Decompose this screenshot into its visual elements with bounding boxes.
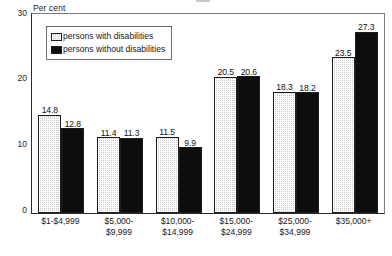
x-axis-label-line: $9,999 [90,227,149,238]
x-axis-label-line: $14,999 [148,227,207,238]
x-axis-label-line: $34,999 [266,227,325,238]
chart-legend: persons with disabilities persons withou… [46,26,172,60]
bar-value-label: 20.6 [241,68,257,77]
x-axis-label: $5,000-$9,999 [90,216,149,237]
legend-swatch-dotted-icon [51,33,62,41]
x-axis-label-line: $25,000- [266,216,325,227]
bar: 20.6 [237,76,260,213]
bar: 18.3 [273,92,296,213]
x-axis-label-line: $24,999 [207,227,266,238]
y-tick-0: 0 [3,206,27,215]
y-axis-title: Per cent [33,3,65,13]
y-tick-20: 20 [3,74,27,83]
legend-swatch-solid-icon [51,46,62,54]
y-tick-30: 30 [3,9,27,18]
bar-value-label: 9.9 [184,139,196,148]
plot-frame: 14.812.811.411.311.59.920.520.618.318.22… [31,13,385,214]
bar: 23.5 [332,57,355,213]
x-axis-label-line: $15,000- [207,216,266,227]
bar-value-label: 12.8 [65,120,81,129]
bar-group: 20.520.6 [208,14,267,213]
bar: 11.3 [120,138,143,213]
bar: 14.8 [38,115,61,213]
bar-value-label: 11.5 [159,128,175,137]
x-axis-label: $1-$4,999 [31,216,90,227]
bar-group: 23.527.3 [325,14,384,213]
bar-value-label: 11.4 [101,129,117,138]
bar-value-label: 18.3 [276,83,292,92]
bar-chart: Per cent 30 20 10 0 14.812.811.411.311.5… [0,0,392,256]
bar-value-label: 11.3 [124,129,140,138]
y-tick-10: 10 [3,140,27,149]
x-axis-label: $10,000-$14,999 [148,216,207,237]
legend-label-with-disabilities: persons with disabilities [63,32,153,41]
x-axis-label-line: $1-$4,999 [31,216,90,227]
bar-group: 18.318.2 [267,14,326,213]
legend-item-with-disabilities: persons with disabilities [51,30,165,43]
x-axis-label-line: $5,000- [90,216,149,227]
legend-label-without-disabilities: persons without disabilities [63,45,165,54]
bar: 18.2 [296,92,319,213]
bar: 9.9 [179,147,202,213]
bar: 27.3 [355,32,378,213]
x-axis-labels: $1-$4,999$5,000-$9,999$10,000-$14,999$15… [31,216,385,254]
bar: 11.5 [156,137,179,213]
x-axis-label: $35,000+ [324,216,383,227]
bar-value-label: 27.3 [358,23,374,32]
y-axis-ticks: 30 20 10 0 [0,0,27,256]
bar: 20.5 [214,77,237,213]
bar-value-label: 18.2 [299,84,315,93]
legend-item-without-disabilities: persons without disabilities [51,43,165,56]
bar-value-label: 23.5 [335,49,351,58]
x-axis-label-line: $35,000+ [324,216,383,227]
scan-speck-artifact [196,0,210,2]
bar-value-label: 20.5 [218,68,234,77]
bar: 12.8 [61,128,84,213]
x-axis-label: $15,000-$24,999 [207,216,266,237]
x-axis-label: $25,000-$34,999 [266,216,325,237]
x-axis-label-line: $10,000- [148,216,207,227]
bar: 11.4 [97,137,120,213]
bar-value-label: 14.8 [42,106,58,115]
